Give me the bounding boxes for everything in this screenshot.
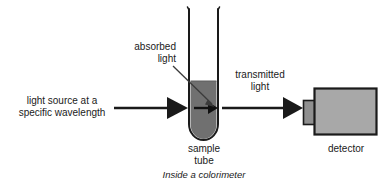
label-transmitted-light: transmitted light <box>226 69 294 93</box>
label-detector: detector <box>310 143 382 155</box>
transmitted-arrow-head <box>283 97 303 119</box>
colorimeter-diagram: light source at a specific wavelength ab… <box>0 0 390 186</box>
transmitted-light-arrow <box>222 97 303 119</box>
detector-graphic <box>304 89 377 135</box>
label-light-source: light source at a specific wavelength <box>8 95 116 119</box>
label-sample-tube: sample tube <box>168 143 240 167</box>
detector-body <box>315 89 377 135</box>
figure-caption: Inside a colorimeter <box>130 169 278 180</box>
light-source-arrow-head <box>167 97 188 119</box>
tube-mouth-left-flare <box>188 7 190 10</box>
sample-tube-graphic <box>188 7 220 140</box>
label-absorbed-light: absorbed light <box>98 41 176 65</box>
light-source-arrow <box>114 97 188 119</box>
tube-mouth-right-flare <box>218 7 220 10</box>
